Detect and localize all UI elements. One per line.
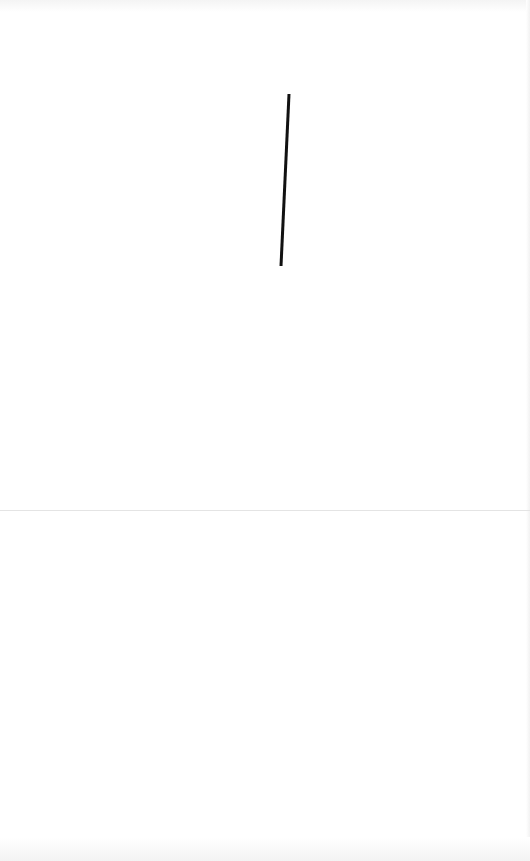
drawn-stroke (281, 94, 289, 266)
stroke-layer (0, 0, 530, 510)
bottom-edge-shading (0, 837, 530, 861)
lower-blank-panel (0, 511, 530, 837)
drawing-canvas[interactable] (0, 0, 530, 510)
